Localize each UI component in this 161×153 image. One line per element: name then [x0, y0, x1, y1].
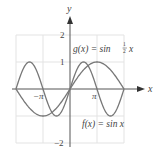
- y-axis-arrow-icon: [67, 16, 73, 24]
- g-function-label: g(x) = sin 1 2 x: [73, 41, 134, 55]
- x-axis-arrow-icon: [137, 86, 145, 92]
- x-tick-neg-pi: −π: [33, 91, 44, 101]
- x-axis-label: x: [147, 83, 153, 94]
- svg-text:g(x) = sin: g(x) = sin: [73, 44, 111, 55]
- f-function-label: f(x) = sin x: [82, 119, 125, 130]
- svg-text:x: x: [128, 44, 134, 54]
- y-tick-1: 1: [60, 57, 65, 67]
- y-axis-label: y: [66, 3, 72, 14]
- y-tick-2: 2: [60, 30, 65, 40]
- y-tick-neg2: −2: [54, 138, 64, 148]
- sine-graph: y x 2 1 −2 −π π g(x) = sin 1 2 x f(x) = …: [0, 0, 161, 153]
- x-tick-pi: π: [92, 91, 97, 101]
- svg-text:1: 1: [123, 41, 126, 47]
- svg-text:2: 2: [123, 48, 126, 54]
